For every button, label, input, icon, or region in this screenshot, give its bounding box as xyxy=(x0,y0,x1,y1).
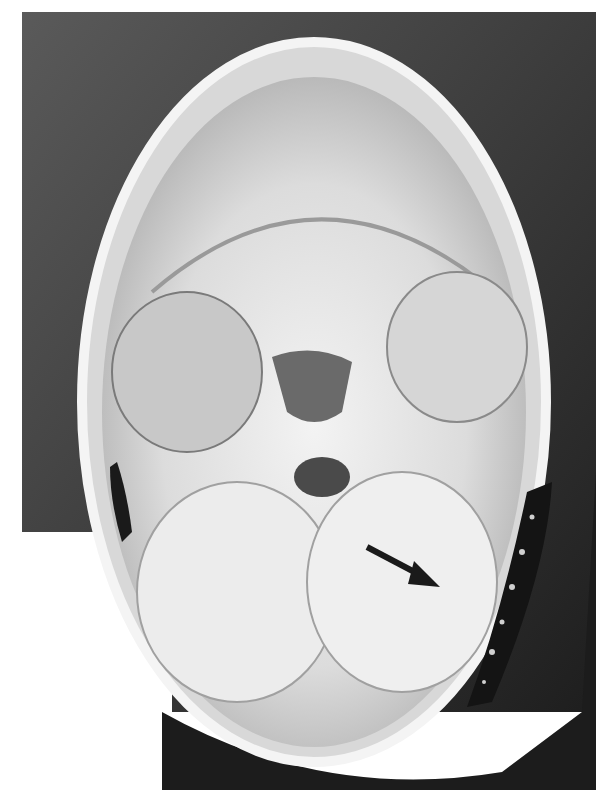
skull-base-photograph xyxy=(22,12,596,790)
photograph-canvas xyxy=(22,12,596,790)
foramen-magnum xyxy=(294,457,350,497)
middle-fossa-left xyxy=(112,292,262,452)
posterior-fossa-right xyxy=(307,472,497,692)
middle-fossa-right xyxy=(387,272,527,422)
